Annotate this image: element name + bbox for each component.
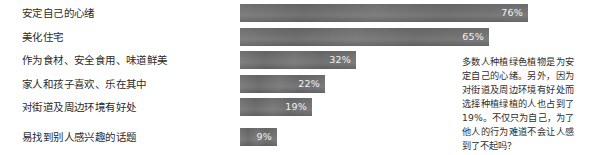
category-label: 作为食材、安全食用、味道鲜美 xyxy=(22,51,168,69)
bar-value-label: 32% xyxy=(329,51,351,69)
bar: 9% xyxy=(240,128,277,146)
chart-annotation-text: 多数人种植绿色植物是为安定自己的心绪。另外，因为对街道及周边环境有好处而选择种植… xyxy=(462,55,574,153)
bar-track: 19% xyxy=(240,98,312,116)
bar: 76% xyxy=(240,4,528,22)
bar: 65% xyxy=(240,28,489,46)
category-label: 家人和孩子喜欢、乐在其中 xyxy=(22,75,147,93)
bar: 19% xyxy=(240,98,312,116)
category-label: 安定自己的心绪 xyxy=(22,4,95,22)
bar-track: 76% xyxy=(240,4,528,22)
category-label: 易找到别人感兴趣的话题 xyxy=(22,128,136,146)
bar: 32% xyxy=(240,51,356,69)
category-label: 美化住宅 xyxy=(22,28,64,46)
bar-track: 32% xyxy=(240,51,356,69)
bar-value-label: 76% xyxy=(501,4,523,22)
bar-track: 65% xyxy=(240,28,489,46)
bar-value-label: 22% xyxy=(298,75,320,93)
bar-track: 9% xyxy=(240,128,277,146)
bar-track: 22% xyxy=(240,75,325,93)
bar-value-label: 9% xyxy=(257,128,272,146)
bar-chart: 安定自己的心绪 76% 美化住宅 65% 作为食材、安全食用、味道鲜美 32% … xyxy=(0,0,597,155)
bar: 22% xyxy=(240,75,325,93)
category-label: 对街道及周边环境有好处 xyxy=(22,98,136,116)
bar-value-label: 65% xyxy=(462,28,484,46)
bar-value-label: 19% xyxy=(285,98,307,116)
